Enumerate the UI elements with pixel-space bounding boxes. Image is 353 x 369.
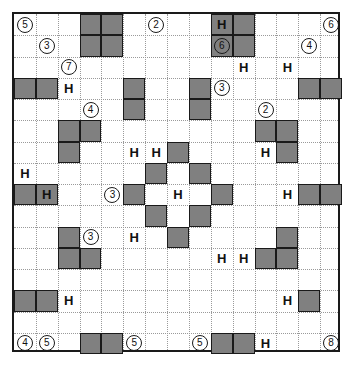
- shaded-cell[interactable]: [189, 99, 211, 120]
- shaded-cell[interactable]: [298, 290, 320, 311]
- cell-mark-h[interactable]: H: [14, 163, 36, 184]
- clue-number[interactable]: 8: [323, 335, 339, 351]
- cell-mark-h[interactable]: H: [276, 184, 298, 205]
- shaded-cell[interactable]: [80, 14, 102, 35]
- cell-mark-h[interactable]: H: [36, 184, 58, 205]
- shaded-cell[interactable]: [276, 227, 298, 248]
- shaded-cell[interactable]: [36, 78, 58, 99]
- clue-number[interactable]: 4: [83, 102, 99, 118]
- shaded-cell[interactable]: [298, 78, 320, 99]
- shaded-cell[interactable]: [80, 333, 102, 354]
- gridline-vertical: [255, 14, 256, 350]
- shaded-cell[interactable]: [189, 78, 211, 99]
- clue-number[interactable]: 4: [17, 335, 33, 351]
- shaded-cell[interactable]: [211, 184, 233, 205]
- shaded-cell[interactable]: [276, 142, 298, 163]
- shaded-cell[interactable]: [58, 142, 80, 163]
- clue-number[interactable]: 5: [39, 335, 55, 351]
- shaded-cell[interactable]: [255, 120, 277, 141]
- shaded-cell[interactable]: [145, 205, 167, 226]
- shaded-cell[interactable]: [123, 99, 145, 120]
- shaded-cell[interactable]: [101, 333, 123, 354]
- gridline-horizontal: [14, 205, 338, 206]
- cell-mark-h[interactable]: H: [167, 184, 189, 205]
- shaded-cell[interactable]: [276, 248, 298, 269]
- cell-mark-h[interactable]: H: [58, 78, 80, 99]
- cell-mark-h[interactable]: H: [145, 142, 167, 163]
- shaded-cell[interactable]: [255, 248, 277, 269]
- clue-number[interactable]: 3: [83, 229, 99, 245]
- shaded-cell[interactable]: [58, 248, 80, 269]
- shaded-cell[interactable]: [14, 290, 36, 311]
- shaded-cell[interactable]: [14, 78, 36, 99]
- cell-mark-h[interactable]: H: [58, 290, 80, 311]
- cell-mark-h[interactable]: H: [233, 57, 255, 78]
- clue-number[interactable]: 6: [323, 17, 339, 33]
- clue-number[interactable]: 5: [126, 335, 142, 351]
- shaded-cell[interactable]: [58, 120, 80, 141]
- shaded-cell[interactable]: [211, 333, 233, 354]
- clue-number[interactable]: 3: [39, 38, 55, 54]
- clue-number[interactable]: 5: [192, 335, 208, 351]
- cell-mark-h[interactable]: H: [276, 57, 298, 78]
- gridline-vertical: [320, 14, 321, 350]
- gridline-horizontal: [14, 35, 338, 36]
- gridline-vertical: [167, 14, 168, 350]
- shaded-cell[interactable]: [80, 35, 102, 56]
- clue-number[interactable]: 3: [214, 80, 230, 96]
- cell-mark-h[interactable]: H: [233, 248, 255, 269]
- cell-mark-h[interactable]: H: [255, 142, 277, 163]
- gridline-horizontal: [14, 312, 338, 313]
- shaded-cell[interactable]: [58, 227, 80, 248]
- clue-number[interactable]: 4: [301, 38, 317, 54]
- puzzle-canvas: HHHHHHHHHHHHHHHHH53726644323355458: [0, 0, 353, 369]
- shaded-cell[interactable]: [101, 14, 123, 35]
- shaded-cell[interactable]: [36, 290, 58, 311]
- shaded-cell[interactable]: [233, 35, 255, 56]
- cell-mark-h[interactable]: H: [211, 248, 233, 269]
- gridline-vertical: [80, 14, 81, 350]
- gridline-vertical: [211, 14, 212, 350]
- cell-mark-h[interactable]: H: [123, 142, 145, 163]
- shaded-cell[interactable]: [276, 120, 298, 141]
- gridline-horizontal: [14, 99, 338, 100]
- puzzle-grid[interactable]: HHHHHHHHHHHHHHHHH53726644323355458: [12, 12, 340, 352]
- clue-number[interactable]: 2: [148, 17, 164, 33]
- clue-number[interactable]: 3: [104, 187, 120, 203]
- shaded-cell[interactable]: [320, 78, 342, 99]
- shaded-cell[interactable]: [123, 184, 145, 205]
- cell-mark-h[interactable]: H: [123, 227, 145, 248]
- shaded-cell[interactable]: [80, 248, 102, 269]
- cell-mark-h[interactable]: H: [211, 14, 233, 35]
- shaded-cell[interactable]: [167, 227, 189, 248]
- shaded-cell[interactable]: [101, 35, 123, 56]
- clue-number[interactable]: 5: [17, 17, 33, 33]
- grid-inner: HHHHHHHHHHHHHHHHH53726644323355458: [14, 14, 338, 350]
- shaded-cell[interactable]: [123, 78, 145, 99]
- shaded-cell[interactable]: [320, 184, 342, 205]
- gridline-vertical: [101, 14, 102, 350]
- shaded-cell[interactable]: [145, 163, 167, 184]
- gridline-horizontal: [14, 163, 338, 164]
- gridline-vertical: [123, 14, 124, 350]
- clue-number[interactable]: 6: [214, 38, 230, 54]
- shaded-cell[interactable]: [189, 205, 211, 226]
- clue-number[interactable]: 2: [258, 102, 274, 118]
- cell-mark-h[interactable]: H: [276, 290, 298, 311]
- shaded-cell[interactable]: [298, 184, 320, 205]
- gridline-horizontal: [14, 333, 338, 334]
- clue-number[interactable]: 7: [61, 59, 77, 75]
- shaded-cell[interactable]: [233, 14, 255, 35]
- gridline-horizontal: [14, 269, 338, 270]
- shaded-cell[interactable]: [167, 142, 189, 163]
- shaded-cell[interactable]: [14, 184, 36, 205]
- shaded-cell[interactable]: [80, 120, 102, 141]
- shaded-cell[interactable]: [233, 333, 255, 354]
- shaded-cell[interactable]: [189, 163, 211, 184]
- cell-mark-h[interactable]: H: [255, 333, 277, 354]
